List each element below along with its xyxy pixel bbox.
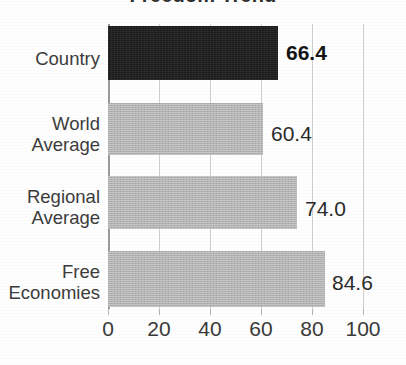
tick-label-60: 60 — [249, 317, 272, 341]
tick-mark-20 — [159, 309, 160, 315]
tick-label-80: 80 — [300, 317, 323, 341]
bar-fill — [108, 103, 263, 155]
tick-label-0: 0 — [102, 317, 114, 341]
value-label-country: 66.4 — [286, 42, 327, 63]
category-label-line: Regional — [0, 186, 100, 207]
category-label-line: Average — [0, 134, 100, 155]
category-label-line: Country — [0, 48, 100, 69]
tick-label-40: 40 — [198, 317, 221, 341]
bar-chart: Freedom Trend Country World Average Regi… — [0, 0, 406, 365]
bar-free-economies[interactable] — [108, 251, 325, 307]
category-label-world-average: World Average — [0, 113, 100, 155]
category-label-free-economies: Free Economies — [0, 261, 100, 303]
category-label-regional-average: Regional Average — [0, 186, 100, 228]
plot-area — [108, 24, 364, 309]
tick-mark-40 — [210, 309, 211, 315]
category-label-line: Economies — [0, 282, 100, 303]
value-label-regional-average: 74.0 — [305, 198, 346, 219]
tick-mark-80 — [312, 309, 313, 315]
bar-fill — [108, 251, 325, 307]
category-label-line: World — [0, 113, 100, 134]
chart-title: Freedom Trend — [0, 0, 406, 2]
tick-mark-100 — [363, 309, 364, 315]
bar-world-average[interactable] — [108, 103, 263, 155]
tick-mark-0 — [108, 309, 109, 315]
value-label-world-average: 60.4 — [271, 123, 312, 144]
gridline-100 — [363, 24, 364, 309]
tick-label-100: 100 — [345, 317, 380, 341]
bar-fill — [108, 176, 297, 229]
category-label-line: Average — [0, 207, 100, 228]
tick-label-20: 20 — [147, 317, 170, 341]
bar-fill — [108, 26, 278, 80]
bar-country[interactable] — [108, 26, 278, 80]
tick-mark-60 — [261, 309, 262, 315]
x-axis: 0 20 40 60 80 100 — [108, 309, 364, 349]
category-label-line: Free — [0, 261, 100, 282]
category-label-country: Country — [0, 48, 100, 69]
value-label-free-economies: 84.6 — [332, 272, 373, 293]
bar-regional-average[interactable] — [108, 176, 297, 229]
